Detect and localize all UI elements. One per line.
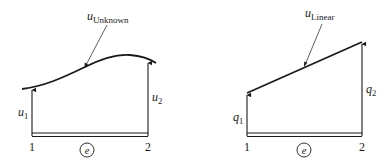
linear-function-line: [247, 42, 362, 93]
node-number-2-left: 2: [145, 140, 151, 154]
diagram-canvas: uUnknown u1 u2 1 2 e: [0, 0, 387, 165]
node-number-1-left: 1: [29, 140, 35, 154]
curve-label-unknown: uUnknown: [87, 9, 129, 25]
label-q2: q2: [366, 82, 376, 98]
curve-label-linear: uLinear: [305, 6, 334, 22]
element-label-left: e: [85, 145, 90, 156]
element-bar-right: [247, 133, 362, 137]
left-panel-unknown-function: uUnknown u1 u2 1 2 e: [18, 9, 162, 157]
element-marker-right: e: [297, 143, 311, 157]
element-label-right: e: [302, 145, 307, 156]
pointer-line-linear: [305, 24, 322, 65]
node-number-2-right: 2: [359, 140, 365, 154]
label-u2: u2: [152, 90, 162, 106]
label-u1: u1: [18, 105, 28, 121]
node-number-1-right: 1: [244, 140, 250, 154]
right-panel-linear-approximation: uLinear q1 q2 1 2 e: [233, 6, 376, 157]
element-marker-left: e: [80, 143, 94, 157]
label-q1: q1: [233, 110, 243, 126]
element-bar-left: [32, 133, 148, 137]
